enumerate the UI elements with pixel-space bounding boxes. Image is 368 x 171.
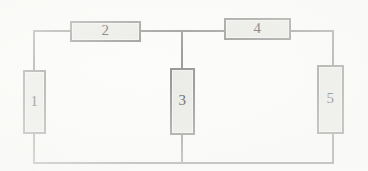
component-5-label: 5 [327, 91, 335, 106]
wire-right-upper-lead [332, 30, 334, 66]
wire-top-right-lead [290, 30, 334, 32]
component-1-label: 1 [31, 94, 39, 109]
wire-left-upper-lead [33, 30, 35, 71]
wire-bottom-rail [33, 162, 334, 164]
component-4-label: 4 [254, 21, 262, 36]
wire-center-lower-lead [181, 134, 183, 163]
circuit-diagram: 1 2 3 4 5 [0, 0, 368, 171]
component-5: 5 [317, 65, 344, 134]
component-3: 3 [170, 68, 195, 135]
wire-center-upper-lead [181, 30, 183, 69]
component-4: 4 [224, 18, 291, 40]
component-2-label: 2 [102, 23, 110, 38]
component-2: 2 [70, 21, 141, 42]
wire-right-lower-lead [332, 133, 334, 163]
component-1: 1 [23, 70, 46, 134]
component-3-label: 3 [179, 93, 187, 108]
wire-top-left-lead [33, 30, 71, 32]
wire-left-lower-lead [33, 133, 35, 163]
